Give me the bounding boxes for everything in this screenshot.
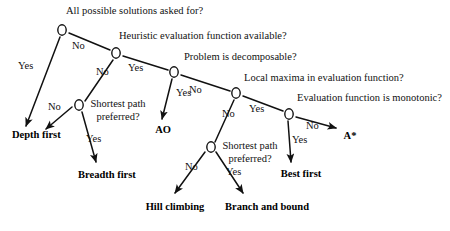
edge-answer-label-e11: No: [185, 161, 198, 172]
decision-node-n5[interactable]: [285, 109, 293, 119]
question-label-n7: Shortest path preferred?: [218, 140, 282, 165]
decision-node-n7[interactable]: [207, 142, 215, 152]
edge-answer-label-e12: Yes: [226, 166, 241, 177]
tree-edge-e1: [26, 37, 60, 126]
tree-edge-e7: [162, 79, 172, 119]
edge-answer-label-e3: No: [96, 66, 109, 77]
edge-answer-label-e2: No: [72, 40, 85, 51]
decision-node-n2[interactable]: [112, 48, 120, 58]
edge-answer-label-e9: No: [222, 108, 235, 119]
edge-answer-label-e1: Yes: [18, 60, 33, 71]
leaf-algorithm-label-l5: Branch and bound: [225, 201, 287, 214]
edge-answer-label-e5: No: [48, 101, 61, 112]
question-label-n5: Evaluation function is monotonic?: [297, 92, 442, 104]
decision-node-n3[interactable]: [170, 67, 178, 77]
edge-answer-label-e8: No: [189, 84, 202, 95]
decision-node-n4[interactable]: [232, 88, 240, 98]
question-label-n1: All possible solutions asked for?: [66, 5, 203, 17]
question-label-n6: Shortest path preferred?: [86, 98, 150, 123]
decision-node-n1[interactable]: [58, 25, 66, 35]
question-label-n2: Heuristic evaluation function available?: [119, 30, 287, 42]
edge-answer-label-e14: No: [306, 120, 319, 131]
question-label-n3: Problem is decomposable?: [184, 51, 297, 63]
leaf-algorithm-label-l2: Breadth first: [78, 169, 128, 182]
question-label-n4: Local maxima in evaluation function?: [244, 72, 404, 84]
tree-edge-e11: [175, 152, 205, 193]
leaf-algorithm-label-l7: A*: [341, 130, 359, 143]
tree-edge-e13: [288, 121, 291, 162]
leaf-algorithm-label-l4: Hill climbing: [142, 201, 208, 214]
decision-tree-diagram: All possible solutions asked for?Heurist…: [0, 0, 450, 231]
edge-answer-label-e10: Yes: [249, 103, 264, 114]
tree-edge-e9: [215, 100, 234, 142]
edge-answer-label-e13: Yes: [292, 134, 307, 145]
leaf-algorithm-label-l6: Best first: [279, 168, 323, 181]
edge-answer-label-e4: Yes: [128, 62, 143, 73]
leaf-algorithm-label-l1: Depth first: [12, 129, 54, 142]
edge-answer-label-e6: Yes: [86, 133, 101, 144]
leaf-algorithm-label-l3: AO: [152, 124, 174, 137]
decision-node-n6[interactable]: [75, 100, 83, 110]
